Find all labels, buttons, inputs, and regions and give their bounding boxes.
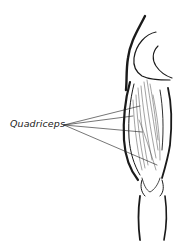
- knee-cap: [142, 178, 160, 192]
- hip-inner-stroke: [153, 46, 172, 78]
- knee-right: [160, 180, 163, 196]
- shin-outer: [139, 196, 141, 240]
- thigh-inner-line: [160, 90, 163, 150]
- leg-anatomy-illustration: Quadriceps: [0, 0, 187, 252]
- thigh-outer-inner-line: [129, 84, 140, 175]
- calf-inner: [164, 196, 166, 240]
- buttock-stroke: [134, 32, 170, 80]
- quadriceps-label: Quadriceps: [10, 118, 65, 129]
- knee-left: [141, 180, 145, 196]
